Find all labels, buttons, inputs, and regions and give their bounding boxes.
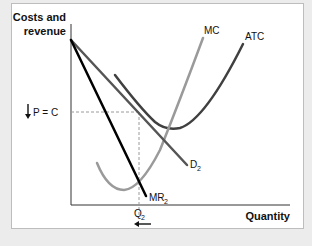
price-equals-cost-label: P = C [33,107,58,118]
demand-curve-d2 [71,40,187,165]
x-axis-label: Quantity [245,210,290,222]
y-axis-label-line2: revenue [24,25,66,37]
atc-label: ATC [245,31,264,42]
q2-label-subscript: 2 [141,214,145,221]
mc-label: MC [204,25,220,36]
mr2-label: MR [149,192,165,203]
mc-curve [97,38,203,190]
atc-curve [115,44,243,129]
y-axis-label-line1: Costs and [13,11,66,23]
marginal-revenue-curve-mr2 [71,40,146,196]
mr2-label-subscript: 2 [164,198,168,205]
d2-label-subscript: 2 [197,165,201,172]
price-down-arrowhead-icon [25,114,31,119]
cost-revenue-chart: Costs and revenue Quantity MC ATC D 2 MR… [0,0,312,246]
quantity-left-arrowhead-icon [134,221,139,227]
